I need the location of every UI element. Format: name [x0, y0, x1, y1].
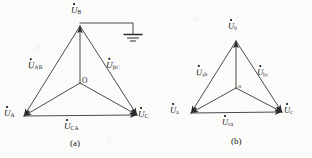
- phasor-Ua: [191, 88, 236, 113]
- caption-a: (a): [70, 138, 80, 148]
- side-label-UBC: UBC: [106, 61, 121, 71]
- phasor-diagram-b: Ub Ua Uc Uab Ubc Uca o (b): [158, 0, 312, 158]
- edge-Uca: [191, 112, 282, 113]
- vertex-label-Uc: Uc: [284, 106, 293, 115]
- figure-page: UB UA UC UAB UBC UCA O (a): [0, 0, 312, 158]
- phasor-UC: [80, 83, 137, 115]
- vertex-label-Ub: Ub: [228, 22, 237, 31]
- edge-UAB: [24, 26, 80, 116]
- edge-UCA: [24, 115, 137, 116]
- side-label-UAB: UAB: [28, 61, 43, 71]
- side-label-Uab: Uab: [196, 68, 208, 78]
- side-label-Ubc: Ubc: [257, 68, 269, 78]
- phasor-Uc: [236, 88, 282, 112]
- vertex-label-UC: UC: [138, 110, 148, 120]
- origin-label-b: o: [238, 82, 241, 89]
- caption-b: (b): [231, 136, 242, 146]
- vertex-label-Ua: Ua: [170, 106, 179, 115]
- phasor-UA: [24, 83, 80, 116]
- ground-icon: [124, 35, 142, 42]
- side-label-Uca: Uca: [222, 118, 233, 127]
- ground-lead: [80, 23, 133, 34]
- vertex-label-UB: UB: [71, 6, 81, 16]
- vertex-label-UA: UA: [4, 109, 15, 119]
- phasor-diagram-a: UB UA UC UAB UBC UCA O (a): [0, 0, 158, 158]
- origin-label-a: O: [82, 76, 87, 85]
- side-label-UCA: UCA: [64, 122, 79, 132]
- phasor-diagram-a-svg: [0, 0, 158, 158]
